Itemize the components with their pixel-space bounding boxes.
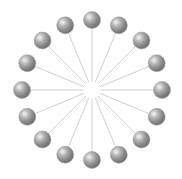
node-sphere — [34, 32, 51, 49]
node-specular-highlight — [151, 58, 156, 62]
node-specular-highlight — [37, 36, 42, 40]
graph-node[interactable] — [34, 131, 51, 148]
node-specular-highlight — [22, 58, 27, 62]
node-specular-highlight — [157, 85, 162, 89]
graph-node[interactable] — [148, 55, 165, 72]
node-specular-highlight — [136, 36, 141, 40]
node-specular-highlight — [136, 135, 141, 139]
graph-node[interactable] — [57, 146, 74, 163]
node-sphere — [57, 17, 74, 34]
graph-node[interactable] — [34, 32, 51, 49]
graph-node[interactable] — [148, 108, 165, 125]
graph-node[interactable] — [57, 17, 74, 34]
node-specular-highlight — [114, 20, 119, 24]
node-specular-highlight — [60, 150, 65, 154]
node-specular-highlight — [17, 85, 22, 89]
node-specular-highlight — [87, 15, 92, 19]
graph-node[interactable] — [154, 82, 171, 99]
graph-node[interactable] — [133, 32, 150, 49]
node-sphere — [133, 131, 150, 148]
node-specular-highlight — [37, 135, 42, 139]
graph-node[interactable] — [84, 12, 101, 29]
node-specular-highlight — [151, 112, 156, 116]
node-sphere — [110, 146, 127, 163]
node-sphere — [19, 108, 36, 125]
node-sphere — [154, 82, 171, 99]
graph-node[interactable] — [110, 146, 127, 163]
graph-node[interactable] — [84, 152, 101, 169]
node-sphere — [57, 146, 74, 163]
radial-graph-svg — [0, 0, 182, 179]
radial-graph-canvas — [0, 0, 182, 179]
node-sphere — [34, 131, 51, 148]
node-sphere — [19, 55, 36, 72]
graph-node[interactable] — [19, 108, 36, 125]
node-specular-highlight — [60, 20, 65, 24]
graph-node[interactable] — [19, 55, 36, 72]
node-sphere — [148, 55, 165, 72]
graph-node[interactable] — [14, 82, 31, 99]
node-sphere — [133, 32, 150, 49]
node-specular-highlight — [22, 112, 27, 116]
node-specular-highlight — [114, 150, 119, 154]
node-sphere — [148, 108, 165, 125]
node-sphere — [14, 82, 31, 99]
graph-node[interactable] — [110, 17, 127, 34]
node-sphere — [84, 152, 101, 169]
node-sphere — [110, 17, 127, 34]
graph-node[interactable] — [133, 131, 150, 148]
node-specular-highlight — [87, 155, 92, 159]
node-sphere — [84, 12, 101, 29]
